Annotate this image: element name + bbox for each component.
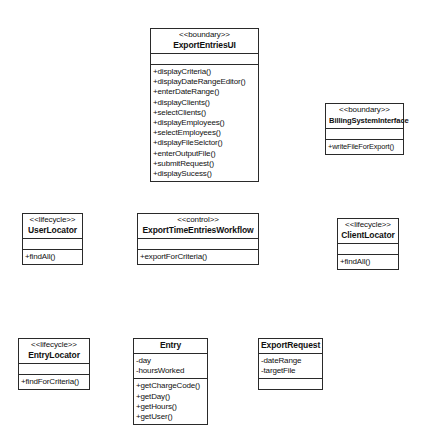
class-stereotype: <<boundary>> [329,105,400,115]
class-header: <<lifecycle>> UserLocator [23,214,82,238]
operation-item: +getUser() [134,412,207,422]
class-name: ExportTimeEntriesWorkflow [141,225,255,236]
class-name: EntryLocator [22,350,86,361]
operations-compartment: +exportForCriteria() [138,249,258,264]
attributes-compartment [19,363,89,374]
class-name: ClientLocator [341,230,395,241]
class-name: UserLocator [26,225,79,236]
attributes-compartment [151,53,258,64]
operation-item: +displayClients() [151,98,258,108]
class-stereotype: <<lifecycle>> [26,215,79,225]
operations-compartment: +findForCriteria() [19,374,89,389]
operation-item: +displayDateRangeEditor() [151,77,258,87]
attributes-compartment [326,128,403,139]
class-stereotype: <<control>> [141,215,255,225]
class-stereotype: <<boundary>> [154,30,255,40]
class-header: Entry [134,339,207,353]
class-header: <<lifecycle>> EntryLocator [19,339,89,363]
class-stereotype: <<lifecycle>> [22,340,86,350]
class-header: <<boundary>> ExportEntriesUI [151,29,258,53]
operation-item: +findAll() [23,252,82,262]
operation-item: +enterDateRange() [151,87,258,97]
operation-item: +findForCriteria() [19,377,89,387]
attribute-item: -hoursWorked [134,366,207,376]
operation-item: +displayCriteria() [151,67,258,77]
operation-item: +writeFileForExport() [326,142,403,152]
uml-class-entry[interactable]: Entry -day -hoursWorked +getChargeCode()… [133,338,208,425]
operation-item: +submitRequest() [151,159,258,169]
uml-class-user-locator[interactable]: <<lifecycle>> UserLocator +findAll() [22,213,83,265]
operations-compartment: +findAll() [23,249,82,264]
uml-class-export-request[interactable]: ExportRequest -dateRange -targetFile [258,338,323,390]
uml-class-client-locator[interactable]: <<lifecycle>> ClientLocator +findAll() [337,218,399,270]
operation-item: +displayFileSelctor() [151,138,258,148]
operations-compartment: +displayCriteria() +displayDateRangeEdit… [151,64,258,181]
class-header: ExportRequest [259,339,322,353]
operations-compartment [259,378,322,389]
operation-list: +findAll() [338,256,398,268]
uml-class-diagram-canvas: <<boundary>> ExportEntriesUI +displayCri… [0,0,435,426]
operation-item: +displayEmployees() [151,118,258,128]
operation-list: +getChargeCode() +getDay() +getHours() +… [134,380,207,423]
class-header: <<control>> ExportTimeEntriesWorkflow [138,214,258,238]
operation-item: +getChargeCode() [134,381,207,391]
attributes-compartment: -dateRange -targetFile [259,353,322,378]
class-name: BillingSystemInterface [329,115,400,126]
class-header: <<lifecycle>> ClientLocator [338,219,398,243]
operation-item: +findAll() [338,257,398,267]
attribute-item: -dateRange [259,356,322,366]
operations-compartment: +writeFileForExport() [326,139,403,154]
attributes-compartment [338,243,398,254]
operation-item: +displaySucess() [151,169,258,179]
operation-list: +findAll() [23,251,82,263]
operation-list: +exportForCriteria() [138,251,258,263]
operation-item: +getDay() [134,392,207,402]
uml-class-billing-system-interface[interactable]: <<boundary>> BillingSystemInterface +wri… [325,103,404,155]
operation-list: +findForCriteria() [19,376,89,388]
class-stereotype: <<lifecycle>> [341,220,395,230]
class-name: ExportRequest [261,340,319,351]
class-name: Entry [137,340,204,351]
operation-item: +enterOutputFile() [151,149,258,159]
operations-compartment: +getChargeCode() +getDay() +getHours() +… [134,378,207,424]
operation-item: +selectEmployees() [151,128,258,138]
operation-item: +selectClients() [151,108,258,118]
operation-item: +getHours() [134,402,207,412]
attributes-compartment [138,238,258,249]
operations-compartment: +findAll() [338,254,398,269]
uml-class-export-entries-ui[interactable]: <<boundary>> ExportEntriesUI +displayCri… [150,28,259,182]
attributes-compartment [23,238,82,249]
attribute-list: -day -hoursWorked [134,355,207,377]
operation-list: +displayCriteria() +displayDateRangeEdit… [151,66,258,180]
operation-item: +exportForCriteria() [138,252,258,262]
attributes-compartment: -day -hoursWorked [134,353,207,378]
attribute-list: -dateRange -targetFile [259,355,322,377]
operation-list: +writeFileForExport() [326,141,403,153]
attribute-item: -targetFile [259,366,322,376]
uml-class-export-time-entries-workflow[interactable]: <<control>> ExportTimeEntriesWorkflow +e… [137,213,259,265]
class-name: ExportEntriesUI [154,40,255,51]
class-header: <<boundary>> BillingSystemInterface [326,104,403,128]
attribute-item: -day [134,356,207,366]
uml-class-entry-locator[interactable]: <<lifecycle>> EntryLocator +findForCrite… [18,338,90,390]
